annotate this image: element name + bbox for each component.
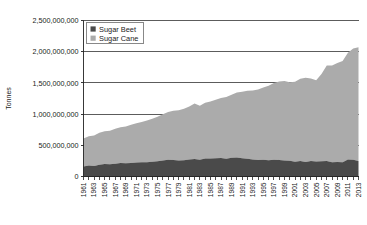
x-tick-label: 2013 xyxy=(355,182,362,197)
x-tick-label: 2009 xyxy=(334,182,341,197)
x-tick-label: 1989 xyxy=(228,182,235,197)
x-tick-label: 1967 xyxy=(112,182,119,197)
y-tick-label: 0 xyxy=(75,172,79,181)
x-tick-label: 1987 xyxy=(217,182,224,197)
chart-legend: Sugar BeetSugar Cane xyxy=(87,23,144,44)
y-tick-label: 2,000,000,000 xyxy=(33,47,79,56)
x-tick-label: 1983 xyxy=(196,182,203,197)
y-tick-label: 1,000,000,000 xyxy=(33,110,79,119)
legend-label: Sugar Beet xyxy=(99,25,136,34)
x-tick-label: 1995 xyxy=(260,182,267,197)
x-tick-label: 2003 xyxy=(302,182,309,197)
x-tick-label: 1975 xyxy=(154,182,161,197)
x-tick-label: 2011 xyxy=(344,182,351,197)
x-tick-label: 1985 xyxy=(207,182,214,197)
x-tick-label: 1977 xyxy=(165,182,172,197)
x-tick-label: 1969 xyxy=(122,182,129,197)
legend-label: Sugar Cane xyxy=(99,34,138,43)
y-axis-title: Tonnes xyxy=(5,87,12,110)
legend-swatch xyxy=(91,36,96,41)
x-tick-label: 1961 xyxy=(80,182,87,197)
x-tick-label: 1999 xyxy=(281,182,288,197)
y-tick-label: 1,500,000,000 xyxy=(33,79,79,88)
x-tick-label: 1965 xyxy=(101,182,108,197)
chart-page: 0500,000,0001,000,000,0001,500,000,0002,… xyxy=(0,0,367,225)
x-tick-label: 1979 xyxy=(175,182,182,197)
stacked-area-chart: 0500,000,0001,000,000,0001,500,000,0002,… xyxy=(0,0,367,225)
x-tick-label: 1993 xyxy=(249,182,256,197)
x-tick-label: 1981 xyxy=(186,182,193,197)
x-tick-label: 1963 xyxy=(90,182,97,197)
y-tick-label: 2,500,000,000 xyxy=(33,16,79,25)
x-tick-label: 2001 xyxy=(291,182,298,197)
area-sugar-cane xyxy=(84,47,359,166)
y-axis-ticks: 0500,000,0001,000,000,0001,500,000,0002,… xyxy=(33,16,84,181)
x-tick-label: 1991 xyxy=(239,182,246,197)
x-tick-label: 1971 xyxy=(133,182,140,197)
legend-swatch xyxy=(91,26,96,31)
x-tick-label: 1973 xyxy=(143,182,150,197)
x-tick-label: 1997 xyxy=(270,182,277,197)
x-tick-label: 2005 xyxy=(313,182,320,197)
x-tick-label: 2007 xyxy=(323,182,330,197)
x-axis-ticks: 1961196319651967196919711973197519771979… xyxy=(80,177,362,198)
y-tick-label: 500,000,000 xyxy=(39,141,79,150)
